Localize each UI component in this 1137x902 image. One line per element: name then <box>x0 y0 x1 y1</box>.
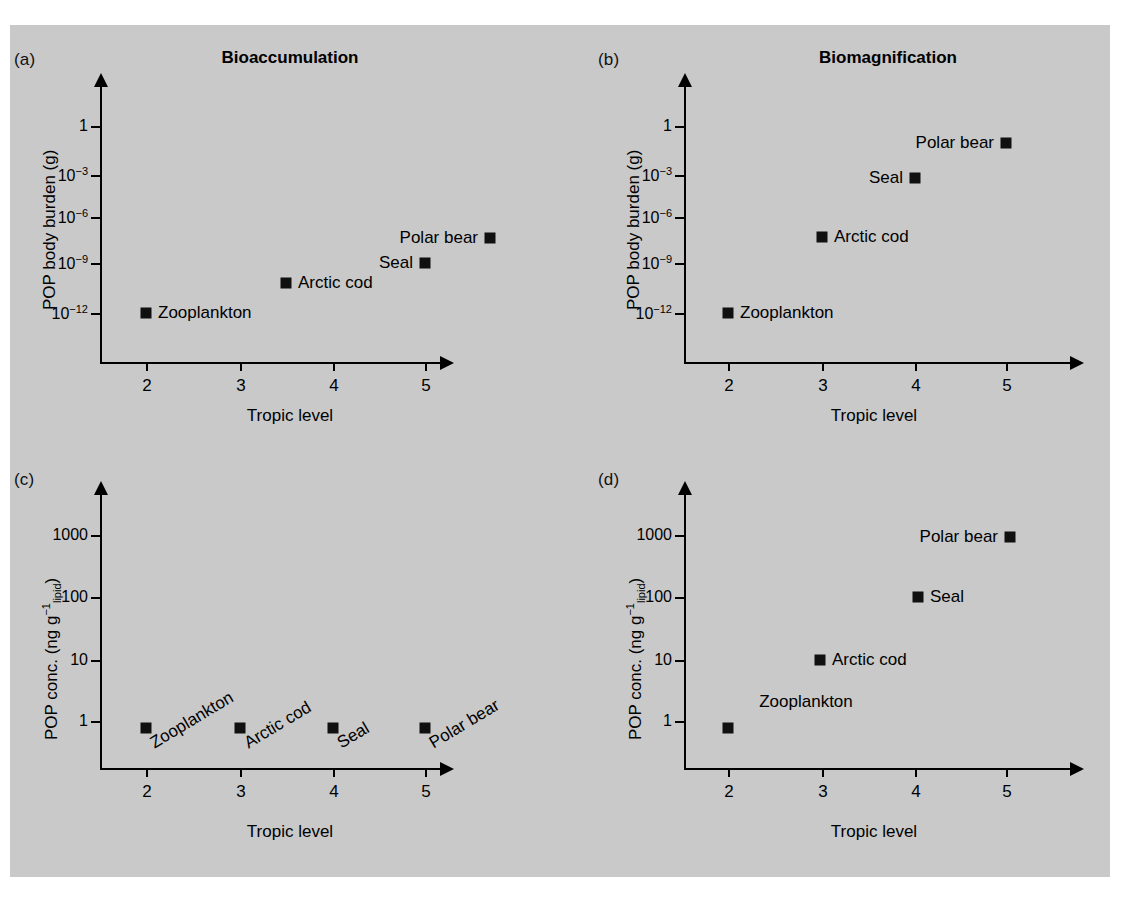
data-point-d-2 <box>913 592 924 603</box>
x-tick-label-a-1: 3 <box>236 376 245 396</box>
y-tick-d-2 <box>675 660 684 662</box>
x-tick-label-b-3: 5 <box>1002 376 1011 396</box>
y-axis-a <box>100 86 102 362</box>
x-axis-c <box>100 768 440 770</box>
y-tick-c-3 <box>91 721 100 723</box>
data-point-label-a-0: Zooplankton <box>158 303 252 323</box>
data-point-b-3 <box>1001 138 1012 149</box>
data-point-b-2 <box>910 173 921 184</box>
x-tick-d-3 <box>1006 768 1008 777</box>
x-axis-arrow-b <box>1070 356 1084 370</box>
y-tick-a-3 <box>91 263 100 265</box>
x-tick-b-1 <box>822 362 824 371</box>
y-tick-label-d-0: 1000 <box>624 526 672 544</box>
y-tick-a-1 <box>91 175 100 177</box>
x-tick-label-c-3: 5 <box>421 782 430 802</box>
y-tick-d-1 <box>675 597 684 599</box>
y-axis-arrow-b <box>678 73 692 87</box>
x-tick-label-b-0: 2 <box>724 376 733 396</box>
x-tick-d-1 <box>822 768 824 777</box>
y-axis-arrow-c <box>94 481 108 495</box>
data-point-c-2 <box>328 723 339 734</box>
panel-label-a: (a) <box>14 50 35 70</box>
x-axis-arrow-c <box>440 762 454 776</box>
x-tick-label-c-2: 4 <box>329 782 338 802</box>
data-point-label-a-3: Polar bear <box>400 228 478 248</box>
y-tick-label-c-0: 1000 <box>40 526 88 544</box>
data-point-b-0 <box>723 308 734 319</box>
x-tick-label-d-2: 4 <box>911 782 920 802</box>
data-point-label-b-3: Polar bear <box>916 133 994 153</box>
y-tick-b-3 <box>675 263 684 265</box>
x-axis-d <box>684 768 1070 770</box>
x-tick-a-1 <box>240 362 242 371</box>
y-tick-label-a-0: 1 <box>40 117 88 135</box>
data-point-c-3 <box>420 723 431 734</box>
x-tick-b-2 <box>915 362 917 371</box>
data-point-a-1 <box>281 278 292 289</box>
x-tick-a-3 <box>425 362 427 371</box>
data-point-label-b-0: Zooplankton <box>740 303 834 323</box>
x-tick-label-d-3: 5 <box>1002 782 1011 802</box>
y-axis-title-c: POP conc. (ng g−1lipid) <box>40 578 63 740</box>
x-tick-b-0 <box>728 362 730 371</box>
x-tick-c-1 <box>240 768 242 777</box>
data-point-label-d-3: Polar bear <box>920 527 998 547</box>
data-point-label-a-1: Arctic cod <box>298 273 373 293</box>
y-tick-d-3 <box>675 721 684 723</box>
x-tick-label-d-1: 3 <box>818 782 827 802</box>
x-tick-c-0 <box>146 768 148 777</box>
panel-label-c: (c) <box>14 470 34 490</box>
x-axis-a <box>100 362 440 364</box>
x-tick-a-0 <box>146 362 148 371</box>
y-tick-a-0 <box>91 126 100 128</box>
x-axis-arrow-a <box>440 356 454 370</box>
panel-title-a: Bioaccumulation <box>222 48 359 68</box>
data-point-label-d-0: Zooplankton <box>759 692 853 712</box>
y-tick-label-b-0: 1 <box>624 117 672 135</box>
data-point-c-0 <box>141 723 152 734</box>
x-tick-label-a-0: 2 <box>142 376 151 396</box>
x-axis-b <box>684 362 1070 364</box>
y-tick-b-2 <box>675 217 684 219</box>
x-tick-a-2 <box>333 362 335 371</box>
data-point-c-1 <box>235 723 246 734</box>
data-point-label-d-1: Arctic cod <box>832 650 907 670</box>
y-tick-b-1 <box>675 175 684 177</box>
x-tick-c-3 <box>425 768 427 777</box>
panel-title-b: Biomagnification <box>819 48 957 68</box>
y-tick-a-4 <box>91 313 100 315</box>
data-point-label-b-1: Arctic cod <box>834 227 909 247</box>
y-tick-d-0 <box>675 535 684 537</box>
x-tick-d-2 <box>915 768 917 777</box>
y-axis-arrow-a <box>94 73 108 87</box>
data-point-a-3 <box>485 233 496 244</box>
x-tick-label-a-2: 4 <box>329 376 338 396</box>
data-point-b-1 <box>817 232 828 243</box>
x-tick-b-3 <box>1006 362 1008 371</box>
y-tick-c-2 <box>91 660 100 662</box>
x-tick-label-c-0: 2 <box>142 782 151 802</box>
panel-label-b: (b) <box>598 50 619 70</box>
x-axis-title-d: Tropic level <box>831 822 917 842</box>
x-tick-label-b-2: 4 <box>911 376 920 396</box>
x-tick-label-c-1: 3 <box>236 782 245 802</box>
y-tick-a-2 <box>91 217 100 219</box>
data-point-label-b-2: Seal <box>869 168 903 188</box>
y-tick-c-0 <box>91 535 100 537</box>
data-point-d-3 <box>1005 532 1016 543</box>
x-tick-label-d-0: 2 <box>724 782 733 802</box>
y-tick-c-1 <box>91 597 100 599</box>
x-tick-d-0 <box>728 768 730 777</box>
y-axis-c <box>100 494 102 768</box>
y-axis-d <box>684 494 686 768</box>
y-axis-arrow-d <box>678 481 692 495</box>
y-axis-b <box>684 86 686 362</box>
x-tick-label-a-3: 5 <box>421 376 430 396</box>
y-axis-title-b: POP body burden (g) <box>624 150 644 310</box>
data-point-label-d-2: Seal <box>930 587 964 607</box>
y-tick-b-0 <box>675 126 684 128</box>
data-point-a-0 <box>141 308 152 319</box>
figure-page: (a)Bioaccumulation110−310−610−910−122345… <box>0 0 1137 902</box>
x-tick-label-b-1: 3 <box>818 376 827 396</box>
